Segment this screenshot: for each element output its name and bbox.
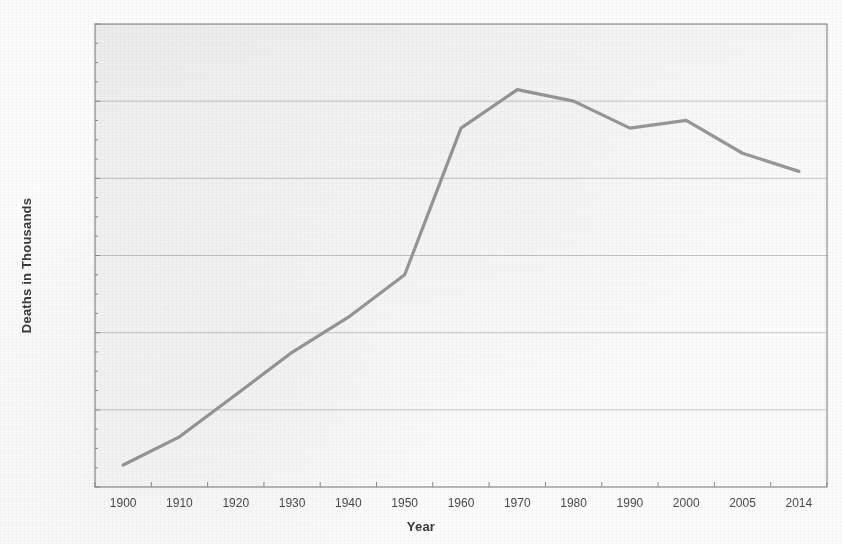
x-tick-label: 1930: [279, 496, 306, 510]
chart-container: 02004006008001,0001,200 1900191019201930…: [0, 0, 842, 544]
x-tick-label: 1990: [617, 496, 644, 510]
x-tick-label: 1940: [335, 496, 362, 510]
x-tick-label: 1960: [448, 496, 475, 510]
x-axis-title: Year: [0, 519, 842, 534]
x-tick-label: 1910: [166, 496, 193, 510]
x-tick-label: 1950: [391, 496, 418, 510]
y-axis-title: Deaths in Thousands: [19, 156, 34, 376]
x-tick-label: 1900: [110, 496, 137, 510]
x-axis-tick-labels: 1900191019201930194019501960197019801990…: [0, 0, 842, 544]
x-tick-label: 2014: [785, 496, 812, 510]
x-tick-label: 1980: [560, 496, 587, 510]
x-tick-label: 1920: [222, 496, 249, 510]
x-tick-label: 2000: [673, 496, 700, 510]
x-tick-label: 1970: [504, 496, 531, 510]
x-tick-label: 2005: [729, 496, 756, 510]
